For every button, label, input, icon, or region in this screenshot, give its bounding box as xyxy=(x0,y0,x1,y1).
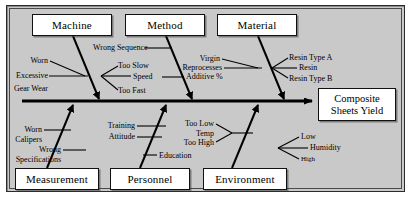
category-label-measurement: Measurement xyxy=(26,173,88,185)
cause-method-wrong-sequence: Wrong Sequence xyxy=(93,43,148,52)
subbones-environment xyxy=(216,124,308,159)
cause-measurement-worn: Worn xyxy=(2,125,42,134)
category-label-environment: Environment xyxy=(215,173,275,185)
category-box-machine[interactable]: Machine xyxy=(32,14,112,36)
bone-environment xyxy=(232,105,258,168)
effect-box[interactable]: Composite Sheets Yield xyxy=(318,88,396,121)
cause-environment-temp: Temp xyxy=(182,129,214,138)
cause-material-virgin: Virgin xyxy=(180,54,220,63)
cause-machine-gear-wear: Gear Wear xyxy=(0,84,48,93)
cause-machine-speed: Speed xyxy=(133,72,153,81)
cause-personnel-attitude: Attitude xyxy=(97,132,135,141)
category-box-measurement[interactable]: Measurement xyxy=(15,168,99,190)
cause-environment-low: Low xyxy=(301,132,316,141)
cause-machine-too-fast: Too Fast xyxy=(118,86,146,95)
category-label-machine: Machine xyxy=(52,19,92,31)
cause-material-resin-type-a: Resin Type A xyxy=(289,53,332,62)
cause-material-reprocesses: Reprocesses xyxy=(168,63,222,72)
effect-label-line1: Composite xyxy=(334,93,380,105)
cause-machine-too-slow: Too Slow xyxy=(118,61,149,70)
cause-machine-worn: Worn xyxy=(4,56,48,65)
subbones-material xyxy=(222,58,297,78)
cause-method-additive: Additive % xyxy=(186,72,223,81)
cause-machine-excessive: Excessive xyxy=(0,71,48,80)
cause-measurement-specifications: Specifications xyxy=(10,155,61,164)
cause-material-resin-type-b: Resin Type B xyxy=(289,74,332,83)
category-box-material[interactable]: Material xyxy=(217,14,297,36)
cause-environment-high: High xyxy=(301,155,315,164)
category-label-material: Material xyxy=(238,19,277,31)
effect-label-line2: Sheets Yield xyxy=(331,105,383,117)
category-box-personnel[interactable]: Personnel xyxy=(110,168,190,190)
category-box-environment[interactable]: Environment xyxy=(203,168,287,190)
category-label-personnel: Personnel xyxy=(127,173,172,185)
category-label-method: Method xyxy=(147,19,182,31)
category-box-method[interactable]: Method xyxy=(125,14,205,36)
cause-environment-too-high: Too High xyxy=(178,138,214,147)
cause-environment-humidity: Humidity xyxy=(310,143,341,152)
cause-material-resin: Resin xyxy=(299,63,317,72)
cause-environment-too-low: Too Low xyxy=(178,119,214,128)
cause-personnel-training: Training xyxy=(97,121,135,130)
cause-personnel-education: Education xyxy=(159,151,191,160)
cause-measurement-wrong: Wrong xyxy=(24,145,61,154)
cause-measurement-calipers: Calipers xyxy=(2,135,42,144)
